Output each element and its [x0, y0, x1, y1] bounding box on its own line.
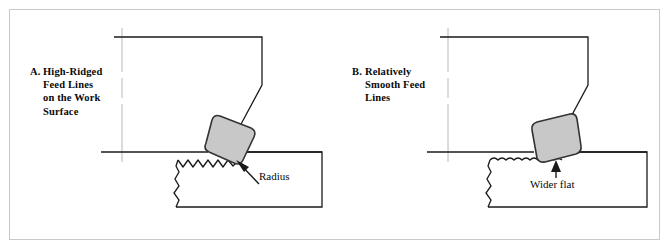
workpiece-break-line-b — [486, 160, 491, 207]
panel-b-tool-holder — [440, 37, 588, 126]
caption-a-text-1: High-Ridged — [43, 66, 102, 77]
caption-b-text-2: Smooth Feed — [352, 78, 425, 91]
caption-panel-a: A.High-Ridged Feed Lines on the Work Sur… — [30, 65, 102, 118]
caption-a-text-4: Surface — [30, 105, 102, 118]
tool-holder-outline — [114, 37, 262, 126]
annotation-radius-label: Radius — [259, 170, 290, 182]
caption-b-letter: B. — [352, 65, 365, 78]
caption-a-letter: A. — [30, 65, 43, 78]
cutting-insert-b — [532, 114, 581, 162]
annotation-wider-flat-label: Wider flat — [530, 178, 574, 190]
caption-b-text-1: Relatively — [365, 66, 411, 77]
tool-holder-outline-b — [440, 37, 588, 126]
workpiece-break-line-a — [174, 160, 179, 207]
caption-a-text-2: Feed Lines — [30, 78, 102, 91]
wider-flat-leader-arrow — [551, 160, 561, 178]
panel-a-tool-holder — [114, 37, 262, 126]
caption-a-line-1: A.High-Ridged — [30, 65, 102, 78]
figure-root: A.High-Ridged Feed Lines on the Work Sur… — [0, 0, 670, 252]
caption-b-line-1: B.Relatively — [352, 65, 425, 78]
caption-panel-b: B.Relatively Smooth Feed Lines — [352, 65, 425, 105]
cutting-insert-a — [205, 116, 255, 165]
figure-drawing — [0, 0, 670, 252]
radius-leader-arrow — [236, 160, 259, 184]
wider-flat-arrowhead — [551, 160, 561, 172]
caption-a-text-3: on the Work — [30, 91, 102, 104]
caption-b-text-3: Lines — [352, 91, 425, 104]
